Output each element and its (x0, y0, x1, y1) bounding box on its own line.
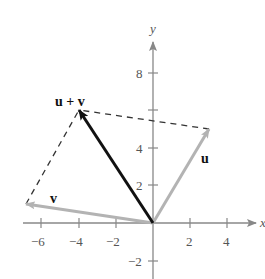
x-tick-label: −6 (31, 234, 45, 249)
x-tick-label: 4 (223, 234, 230, 249)
label-u: u (201, 151, 209, 166)
y-tick-label: 2 (136, 178, 143, 193)
y-axis-label: y (148, 21, 156, 36)
dashed-side-u (79, 110, 209, 129)
dashed-side-v (26, 110, 79, 204)
vector-u-plus-v (79, 110, 153, 223)
x-axis-label: x (259, 215, 265, 230)
vector-v (26, 204, 153, 223)
vector-u (153, 129, 209, 223)
label-v: v (50, 191, 57, 206)
y-tick-label: −2 (128, 254, 142, 269)
x-tick-label: 2 (186, 234, 193, 249)
x-tick-label: −2 (106, 234, 120, 249)
y-tick-label: 8 (136, 66, 143, 81)
x-tick-label: −4 (69, 234, 83, 249)
vector-plot: y x −6 −4 −2 2 4 8 4 2 −2 u + v u v (0, 0, 265, 279)
y-tick-label: 4 (136, 141, 143, 156)
label-u-plus-v: u + v (55, 94, 85, 109)
